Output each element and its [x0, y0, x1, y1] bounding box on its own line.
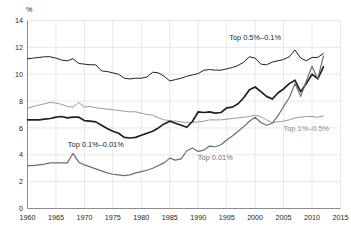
- series-annotation-labels: Top 0.5%–0.1%Top 1%–0.5%Top 0.1%–0.01%To…: [68, 33, 330, 162]
- y-tick-label: 6: [19, 124, 23, 133]
- y-tick-label: 12: [15, 43, 23, 52]
- y-axis-unit-label: %: [26, 5, 33, 14]
- x-tick-label: 2015: [333, 213, 349, 222]
- x-tick-label: 1965: [48, 213, 64, 222]
- y-tick-label: 4: [19, 150, 23, 159]
- top-income-shares-line-chart: 02468101214 1960196519701975198019851990…: [0, 0, 351, 236]
- series-label-1: Top 0.5%–0.1%: [229, 33, 281, 42]
- series-line-1: [28, 50, 324, 81]
- y-tick-label: 10: [15, 70, 23, 79]
- x-tick-label: 1970: [76, 213, 92, 222]
- y-axis-tick-labels: 02468101214: [15, 16, 23, 213]
- x-tick-label: 2005: [276, 213, 292, 222]
- x-tick-label: 1960: [20, 213, 36, 222]
- series-label-2: Top 1%–0.5%: [284, 124, 330, 133]
- series-label-4: Top 0.01%: [198, 153, 233, 162]
- x-tick-label: 1995: [219, 213, 235, 222]
- axis-lines: [28, 21, 341, 209]
- series-line-3: [28, 67, 324, 138]
- x-axis-tick-labels: 1960196519701975198019851990199520002005…: [20, 213, 349, 222]
- chart-container: 02468101214 1960196519701975198019851990…: [0, 0, 351, 236]
- x-tick-label: 1975: [105, 213, 121, 222]
- series-label-3: Top 0.1%–0.01%: [68, 140, 124, 149]
- x-tick-label: 1985: [162, 213, 178, 222]
- x-tick-label: 2000: [247, 213, 263, 222]
- grid-lines: [28, 21, 341, 209]
- x-tick-label: 1980: [133, 213, 149, 222]
- y-tick-label: 14: [15, 16, 23, 25]
- data-series-group: [28, 50, 324, 176]
- y-tick-label: 2: [19, 177, 23, 186]
- series-line-2: [28, 102, 324, 122]
- x-tick-label: 1990: [190, 213, 206, 222]
- y-tick-label: 0: [19, 204, 23, 213]
- y-tick-label: 8: [19, 97, 23, 106]
- x-tick-label: 2010: [304, 213, 320, 222]
